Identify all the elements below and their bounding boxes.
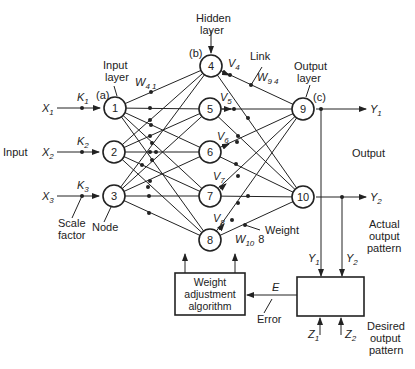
svg-text:layer: layer: [297, 72, 321, 84]
output-arrows: [316, 107, 366, 276]
svg-text:10: 10: [297, 191, 309, 203]
node-8: 8: [199, 229, 221, 251]
svg-text:8: 8: [207, 234, 213, 246]
node-7: 7: [199, 185, 221, 207]
v6: V6: [217, 130, 229, 145]
svg-text:layer: layer: [105, 71, 129, 83]
node-3: 3: [103, 185, 125, 207]
scale-k3: K3: [77, 179, 89, 194]
scale-dot-2: [80, 150, 84, 154]
svg-text:Output: Output: [352, 147, 385, 159]
svg-text:Output: Output: [294, 60, 327, 72]
comparator-block: [247, 277, 364, 335]
comparator-y2: Y2: [346, 252, 358, 267]
weight-w94: W9 4: [257, 71, 279, 86]
output-y2: Y2: [370, 191, 382, 206]
svg-text:9: 9: [300, 103, 306, 115]
input-hidden-links: [114, 66, 211, 240]
svg-text:3: 3: [111, 190, 117, 202]
weight-adjustment-block: Weight adjustment algorithm: [175, 254, 245, 315]
svg-text:7: 7: [207, 190, 213, 202]
weight-w41: W4 1: [135, 76, 157, 91]
v7: V7: [213, 170, 225, 185]
output-y1: Y1: [370, 103, 382, 118]
input-layer-nodes: 1 2 3: [103, 97, 126, 207]
input-x3: X3: [41, 190, 54, 205]
output-layer-nodes: 9 10: [292, 98, 314, 208]
comparator-y1: Y1: [308, 252, 320, 267]
svg-text:5: 5: [207, 103, 213, 115]
node-9: 9: [292, 98, 314, 120]
node-4: 4: [200, 55, 222, 77]
svg-text:algorithm: algorithm: [188, 300, 231, 312]
svg-text:4: 4: [208, 60, 214, 72]
tag-b: (b): [189, 47, 202, 59]
svg-text:1: 1: [112, 102, 118, 114]
svg-text:output: output: [369, 230, 400, 242]
svg-text:Scale: Scale: [58, 217, 86, 229]
weight-w108: W108: [235, 233, 264, 248]
node-2: 2: [103, 141, 125, 163]
svg-text:adjustment: adjustment: [184, 288, 235, 300]
svg-text:2: 2: [111, 146, 117, 158]
scale-k1: K1: [77, 91, 89, 106]
desired-z1: Z1: [307, 328, 319, 343]
svg-text:Weight: Weight: [265, 224, 299, 236]
node-10: 10: [292, 186, 314, 208]
v4: V4: [228, 57, 240, 72]
desired-z2: Z2: [344, 328, 357, 343]
svg-text:pattern: pattern: [369, 344, 403, 356]
svg-text:pattern: pattern: [367, 242, 401, 254]
svg-text:6: 6: [207, 146, 213, 158]
svg-text:Weight: Weight: [194, 276, 227, 288]
svg-text:output: output: [370, 332, 401, 344]
tag-a: (a): [96, 89, 109, 101]
svg-text:layer: layer: [200, 24, 224, 36]
input-x1: X1: [41, 102, 54, 117]
svg-text:Input: Input: [103, 59, 127, 71]
node-5: 5: [199, 98, 221, 120]
node-6: 6: [199, 141, 221, 163]
input-layer-pointer: [114, 86, 117, 96]
input-arrows: [57, 106, 111, 222]
scale-dot-1: [80, 106, 84, 110]
svg-text:Link: Link: [250, 50, 271, 62]
v8: V8: [213, 212, 225, 227]
scale-k2: K2: [77, 135, 89, 150]
input-x2: X2: [41, 146, 54, 161]
svg-text:Error: Error: [257, 313, 282, 325]
tag-c: (c): [313, 91, 326, 103]
error-e: E: [272, 281, 280, 293]
svg-text:Node: Node: [92, 221, 118, 233]
svg-text:Hidden: Hidden: [196, 12, 231, 24]
input-label: Input: [3, 146, 27, 158]
neural-network-diagram: 1 2 3 4 5 6 7 8 9 10 Weight adjustment a…: [0, 0, 415, 369]
svg-text:Actual: Actual: [369, 218, 400, 230]
svg-text:factor: factor: [58, 229, 86, 241]
svg-text:Desired: Desired: [367, 320, 405, 332]
